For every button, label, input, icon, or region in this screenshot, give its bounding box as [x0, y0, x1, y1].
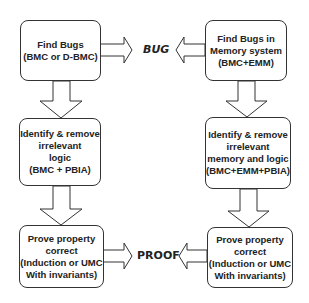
- down-arrow-icon: [228, 189, 269, 227]
- bug-outcome-label: BUG: [143, 43, 169, 56]
- box-line: (BMC+EMM): [218, 57, 274, 69]
- box-line: memory and logic: [207, 153, 288, 165]
- box-line: correct: [45, 245, 77, 257]
- right-prove-property-box: Prove property correct (Induction or UMC…: [207, 227, 293, 288]
- box-line: irrelevant: [227, 141, 270, 153]
- down-arrow-icon: [40, 81, 82, 118]
- right-find-bugs-memory-box: Find Bugs in Memory system (BMC+EMM): [205, 20, 287, 81]
- box-line: logic: [49, 152, 71, 164]
- left-arrow-icon: [179, 243, 207, 269]
- box-line: (Induction or UMC: [209, 258, 291, 270]
- proof-outcome-label: PROOF: [137, 249, 180, 262]
- box-line: (Induction or UMC: [20, 257, 102, 269]
- box-line: With invariants): [214, 270, 285, 282]
- left-arrow-icon: [176, 37, 205, 63]
- left-prove-property-box: Prove property correct (Induction or UMC…: [19, 225, 104, 288]
- right-arrow-icon: [100, 37, 132, 63]
- down-arrow-icon: [226, 81, 267, 117]
- box-line: Memory system: [210, 45, 282, 57]
- left-identify-remove-box: Identify & remove irrelevant logic (BMC …: [19, 118, 101, 186]
- box-line: Find Bugs: [37, 39, 83, 51]
- box-line: (BMC+EMM+PBIA): [206, 165, 290, 177]
- left-find-bugs-box: Find Bugs (BMC or D-BMC): [20, 20, 101, 81]
- right-arrow-icon: [103, 243, 132, 269]
- box-line: Identify & remove: [20, 128, 100, 140]
- box-line: Prove property: [216, 234, 284, 246]
- box-line: With invariants): [26, 269, 97, 281]
- box-line: Prove property: [28, 233, 96, 245]
- box-line: irrelevant: [39, 140, 82, 152]
- down-arrow-icon: [40, 186, 82, 225]
- box-line: (BMC or D-BMC): [23, 51, 97, 63]
- right-identify-remove-box: Identify & remove irrelevant memory and …: [205, 117, 291, 189]
- box-line: Identify & remove: [208, 129, 288, 141]
- box-line: (BMC + PBIA): [29, 164, 91, 176]
- box-line: Find Bugs in: [217, 33, 275, 45]
- box-line: correct: [234, 246, 266, 258]
